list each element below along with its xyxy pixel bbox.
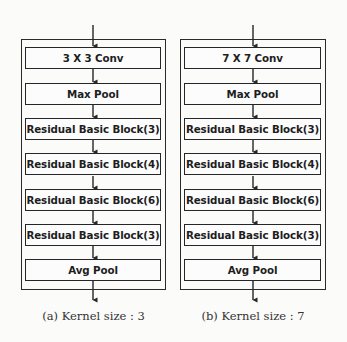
panel-a-maxpool-block: Max Pool — [25, 83, 161, 105]
panel-a-residual-block-2: Residual Basic Block(4) — [25, 153, 161, 175]
panel-b-residual-block-2: Residual Basic Block(4) — [184, 153, 321, 175]
panel-b-conv-block: 7 X 7 Conv — [184, 47, 321, 69]
panel-a-caption: (a) Kernel size : 3 — [21, 309, 166, 323]
panel-a-residual-block-1: Residual Basic Block(3) — [25, 118, 161, 140]
panel-b-avgpool-block: Avg Pool — [184, 259, 321, 281]
panel-a-residual-block-4: Residual Basic Block(3) — [25, 224, 161, 246]
panel-b-residual-block-4: Residual Basic Block(3) — [184, 224, 321, 246]
panel-a-avgpool-block: Avg Pool — [25, 259, 161, 281]
panel-b-maxpool-block: Max Pool — [184, 83, 321, 105]
panel-b-residual-block-3: Residual Basic Block(6) — [184, 189, 321, 211]
panel-a-residual-block-3: Residual Basic Block(6) — [25, 189, 161, 211]
panel-a-conv-block: 3 X 3 Conv — [25, 47, 161, 69]
panel-b-residual-block-1: Residual Basic Block(3) — [184, 118, 321, 140]
panel-b-caption: (b) Kernel size : 7 — [180, 309, 326, 323]
